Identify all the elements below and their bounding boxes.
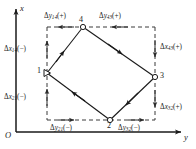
bounding-box-dashed bbox=[47, 27, 155, 120]
traverse-increment-diagram: x y O 1 2 3 4 Δy14(+) Δy43(+) Δx14(−) Δx… bbox=[0, 0, 196, 149]
axis-origin-label: O bbox=[5, 131, 11, 140]
sign: (−) bbox=[131, 124, 140, 132]
increment-label-dy43: Δy43(+) bbox=[99, 13, 121, 20]
traverse-arrow-1-4 bbox=[56, 51, 64, 62]
traverse-polygon bbox=[47, 27, 155, 120]
axis-y-label: y bbox=[184, 133, 188, 142]
sign: (+) bbox=[173, 43, 182, 51]
increment-label-dx32: Δx32(+) bbox=[160, 104, 182, 111]
sign: (−) bbox=[17, 45, 26, 53]
diagram-canvas bbox=[0, 0, 196, 149]
sign: (+) bbox=[173, 103, 182, 111]
sign: (−) bbox=[17, 93, 26, 101]
node-marker-3 bbox=[152, 74, 157, 79]
node-label-3: 3 bbox=[160, 72, 164, 80]
increment-label-dy32: Δy32(−) bbox=[118, 125, 140, 132]
node-marker-4 bbox=[80, 24, 85, 29]
sign: (−) bbox=[63, 124, 72, 132]
axis-x-label: x bbox=[20, 4, 24, 13]
increment-label-dy14: Δy14(+) bbox=[44, 13, 66, 20]
traverse-arrow-4-3 bbox=[108, 44, 122, 54]
increment-label-dx43: Δx43(+) bbox=[160, 44, 182, 51]
node-label-2: 2 bbox=[107, 122, 111, 130]
increment-label-dx14: Δx14(−) bbox=[4, 46, 26, 53]
traverse-arrow-2-1 bbox=[72, 92, 85, 101]
node-label-1: 1 bbox=[37, 67, 41, 75]
increment-label-dx21: Δx21(−) bbox=[4, 94, 26, 101]
node-label-4: 4 bbox=[79, 16, 83, 24]
sign: (+) bbox=[112, 12, 121, 20]
sign: (+) bbox=[57, 12, 66, 20]
increment-label-dy21: Δy21(−) bbox=[50, 125, 72, 132]
traverse-arrow-3-2 bbox=[126, 93, 138, 105]
